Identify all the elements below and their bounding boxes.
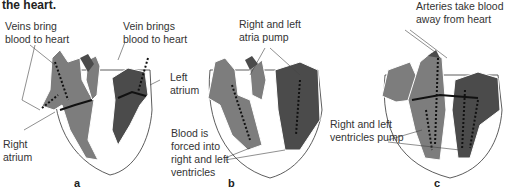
panel-letter-b: b bbox=[228, 177, 235, 189]
heart-panel-a bbox=[22, 42, 160, 175]
label-ventricles-pump: Right and left ventricles pump bbox=[330, 118, 404, 144]
panel-letter-a: a bbox=[74, 177, 80, 189]
label-arteries: Arteries take blood away from heart bbox=[416, 0, 504, 26]
label-right-atrium: Right atrium bbox=[3, 138, 32, 164]
heart-panel-c bbox=[382, 30, 502, 178]
label-veins-bring-blood: Veins bring blood to heart bbox=[5, 20, 69, 46]
label-vein-brings-blood: Vein brings blood to heart bbox=[123, 20, 187, 46]
label-blood-forced: Blood is forced into right and left vent… bbox=[171, 127, 229, 179]
label-left-atrium: Left atrium bbox=[170, 71, 199, 97]
label-atria-pump: Right and left atria pump bbox=[239, 18, 301, 44]
panel-letter-c: c bbox=[434, 177, 440, 189]
